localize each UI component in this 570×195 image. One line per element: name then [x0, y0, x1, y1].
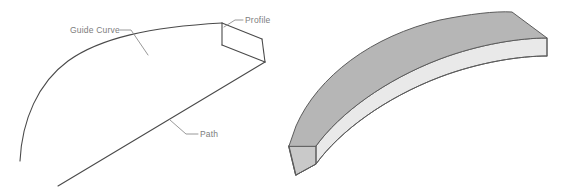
solid-sweep-result — [289, 12, 547, 175]
solid-end-cap-face — [289, 146, 316, 175]
path-label: Path — [200, 129, 218, 139]
path-leader-line — [170, 120, 198, 134]
guide-curve-leader-line — [120, 30, 148, 55]
profile-leader-line — [224, 20, 243, 27]
wireframe-construction-diagram: Guide Curve Profile Path — [20, 15, 271, 186]
guide-curve-label: Guide Curve — [70, 25, 120, 35]
profile-shape — [222, 23, 265, 62]
profile-right-edge — [262, 39, 265, 62]
diagram-canvas: Guide Curve Profile Path — [0, 0, 570, 195]
profile-top-edge — [222, 23, 262, 39]
profile-label: Profile — [245, 15, 271, 25]
path-line — [58, 62, 265, 186]
guide-curve-line — [20, 23, 222, 161]
profile-bottom-edge — [222, 45, 265, 62]
sweep-diagram-figure: Guide Curve Profile Path — [0, 0, 570, 195]
